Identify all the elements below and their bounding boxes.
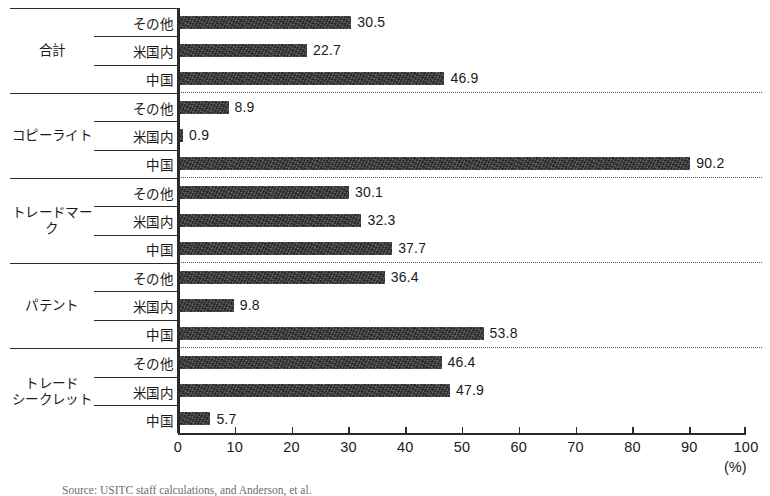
series-label: 米国内 [94, 36, 177, 64]
category-label: トレード シークレット [10, 349, 94, 434]
bar-value-label: 9.8 [240, 297, 260, 313]
series-label: 米国内 [94, 291, 177, 319]
bar [178, 412, 210, 425]
bar-row: 32.3 [178, 206, 762, 234]
x-axis-tick-label: 30 [340, 439, 357, 455]
source-note: Source: USITC staff calculations, and An… [62, 484, 312, 496]
bar-value-label: 90.2 [696, 155, 724, 171]
series-label: 米国内 [94, 377, 177, 406]
series-label: その他 [94, 349, 177, 377]
series-label: 中国 [94, 235, 177, 263]
bar-value-label: 37.7 [398, 240, 426, 256]
bar [178, 384, 450, 397]
series-label: 中国 [94, 150, 177, 178]
bar [178, 157, 690, 170]
bar-chart: 合計その他米国内中国コピーライトその他米国内中国トレードマークその他米国内中国パ… [0, 0, 770, 496]
x-axis-tick-label: 100 [734, 439, 759, 455]
bar [178, 271, 385, 284]
x-axis-tick [405, 427, 406, 433]
series-label-column: その他米国内中国 [94, 264, 177, 348]
bar-value-label: 46.9 [450, 70, 478, 86]
bar-group-4: 36.49.853.8 [178, 263, 762, 348]
bar-row: 46.4 [178, 348, 762, 376]
category-group-5: トレード シークレットその他米国内中国 [10, 349, 177, 434]
bar-value-label: 47.9 [456, 382, 484, 398]
bar-value-label: 30.1 [355, 184, 383, 200]
x-axis-tick-label: 80 [624, 439, 641, 455]
x-axis-tick-label: 90 [681, 439, 698, 455]
x-axis-tick-label: 70 [567, 439, 584, 455]
category-label: 合計 [10, 9, 94, 93]
bar-row: 22.7 [178, 36, 762, 64]
series-label-column: その他米国内中国 [94, 94, 177, 178]
bar-value-label: 5.7 [216, 411, 236, 427]
bar [178, 72, 444, 85]
bar-value-label: 0.9 [189, 127, 209, 143]
series-label: 中国 [94, 65, 177, 93]
x-axis-tick [519, 427, 520, 433]
bar [178, 186, 349, 199]
axis-cap-left [178, 427, 180, 433]
bar-value-label: 32.3 [367, 212, 395, 228]
bar [178, 214, 361, 227]
bar-row: 37.7 [178, 234, 762, 262]
bar-group-5: 46.447.95.7 [178, 348, 762, 433]
axis-unit-label: (%) [724, 459, 747, 475]
bar-value-label: 8.9 [235, 99, 255, 115]
bar-row: 9.8 [178, 291, 762, 319]
series-label: 中国 [94, 405, 177, 434]
x-axis-tick-label: 10 [227, 439, 244, 455]
bar [178, 16, 351, 29]
bar-value-label: 46.4 [448, 354, 476, 370]
x-axis-tick-label: 50 [454, 439, 471, 455]
category-label: パテント [10, 264, 94, 348]
bar-row: 5.7 [178, 405, 762, 433]
series-label-column: その他米国内中国 [94, 179, 177, 263]
x-axis-tick-label: 20 [283, 439, 300, 455]
bar [178, 356, 442, 369]
bar-value-label: 36.4 [391, 269, 419, 285]
plot-area: 合計その他米国内中国コピーライトその他米国内中国トレードマークその他米国内中国パ… [10, 8, 762, 433]
bar-value-label: 53.8 [490, 325, 518, 341]
bar-row: 53.8 [178, 319, 762, 347]
value-axis-line [178, 8, 180, 435]
series-label: 米国内 [94, 121, 177, 149]
bar-group-3: 30.132.337.7 [178, 178, 762, 263]
bar [178, 299, 234, 312]
bar-row: 46.9 [178, 64, 762, 92]
axis-cap-right [744, 427, 746, 433]
x-axis-tick-label: 0 [174, 439, 182, 455]
x-axis-tick [462, 427, 463, 433]
series-label: 中国 [94, 320, 177, 348]
x-axis-tick-label: 60 [511, 439, 528, 455]
series-label: 米国内 [94, 206, 177, 234]
x-axis-tick [235, 427, 236, 433]
series-label: その他 [94, 264, 177, 291]
bar-value-label: 30.5 [357, 14, 385, 30]
x-axis-tick-label: 40 [397, 439, 414, 455]
x-axis: 0102030405060708090100 [178, 433, 746, 435]
bar-row: 36.4 [178, 263, 762, 291]
category-group-4: パテントその他米国内中国 [10, 264, 177, 349]
category-group-2: コピーライトその他米国内中国 [10, 94, 177, 179]
x-axis-tick [632, 427, 633, 433]
category-group-1: 合計その他米国内中国 [10, 9, 177, 94]
bar [178, 242, 392, 255]
bar-group-2: 8.90.990.2 [178, 93, 762, 178]
bar-row: 0.9 [178, 121, 762, 149]
bar [178, 44, 307, 57]
category-label: トレードマーク [10, 179, 94, 263]
bar-row: 47.9 [178, 376, 762, 404]
x-axis-tick [348, 427, 349, 433]
x-axis-tick [292, 427, 293, 433]
category-label: コピーライト [10, 94, 94, 178]
category-label-block: 合計その他米国内中国コピーライトその他米国内中国トレードマークその他米国内中国パ… [10, 8, 178, 433]
bar-row: 30.1 [178, 178, 762, 206]
bar-row: 8.9 [178, 93, 762, 121]
bars-area: 30.522.746.98.90.990.230.132.337.736.49.… [178, 8, 762, 433]
series-label-column: その他米国内中国 [94, 9, 177, 93]
bar-row: 90.2 [178, 149, 762, 177]
bar-value-label: 22.7 [313, 42, 341, 58]
x-axis-tick [689, 427, 690, 433]
category-group-3: トレードマークその他米国内中国 [10, 179, 177, 264]
